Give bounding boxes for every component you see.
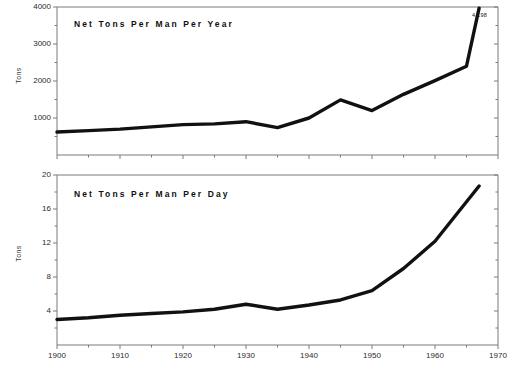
data-series-line: [57, 186, 479, 319]
x-tick-label: 1930: [226, 351, 266, 360]
x-tick-label: 1970: [478, 351, 515, 360]
panel-title-per-year: Net Tons Per Man Per Year: [74, 19, 234, 29]
x-tick-label: 1960: [415, 351, 455, 360]
y-tick-label: 4: [0, 306, 51, 315]
data-annotation-4198: 4,198: [472, 12, 487, 18]
chart-panel-per-day: Tons Net Tons Per Man Per Day 2016128419…: [0, 168, 515, 378]
y-tick-label: 1000: [0, 113, 51, 122]
axis-frame: [57, 175, 498, 345]
y-tick-label: 16: [0, 204, 51, 213]
plot-area-per-day: [0, 168, 515, 378]
y-tick-label: 2000: [0, 76, 51, 85]
x-tick-label: 1920: [163, 351, 203, 360]
x-tick-label: 1910: [100, 351, 140, 360]
figure-root: Tons Net Tons Per Man Per Year 4,198 400…: [0, 0, 515, 378]
y-tick-label: 3000: [0, 39, 51, 48]
x-tick-label: 1950: [352, 351, 392, 360]
y-tick-label: 20: [0, 170, 51, 179]
chart-panel-per-year: Tons Net Tons Per Man Per Year 4,198 400…: [0, 0, 515, 165]
x-tick-label: 1940: [289, 351, 329, 360]
y-tick-label: 12: [0, 238, 51, 247]
panel-title-per-day: Net Tons Per Man Per Day: [74, 189, 230, 199]
y-tick-label: 8: [0, 272, 51, 281]
x-tick-label: 1900: [37, 351, 77, 360]
y-tick-label: 4000: [0, 2, 51, 11]
